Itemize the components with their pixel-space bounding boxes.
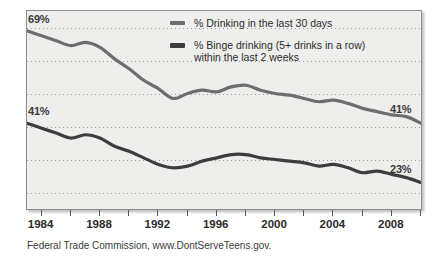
legend-swatch-drinking bbox=[170, 21, 185, 25]
x-axis-tick bbox=[157, 210, 158, 216]
x-axis-labels: 1984198819921996200020042008 bbox=[0, 218, 446, 234]
legend-label-binge-line2: within the last 2 weeks bbox=[194, 51, 299, 63]
x-axis-label: 1984 bbox=[28, 218, 54, 230]
annotation-binge-end: 23% bbox=[390, 163, 411, 175]
x-axis-tick bbox=[362, 210, 363, 216]
x-axis-tick bbox=[420, 210, 421, 216]
legend-item-drinking: % Drinking in the last 30 days bbox=[170, 17, 365, 30]
annotation-drinking-end: 41% bbox=[390, 103, 411, 115]
source-caption: Federal Trade Commission, www.DontServeT… bbox=[27, 240, 271, 251]
x-axis-label: 2004 bbox=[320, 218, 346, 230]
annotation-binge-start: 41% bbox=[28, 105, 49, 117]
x-axis-tick bbox=[187, 210, 188, 216]
x-axis-tick bbox=[274, 210, 275, 216]
x-axis-tick bbox=[303, 210, 304, 216]
x-axis-ticks bbox=[26, 210, 422, 217]
series-line-binge-drinking bbox=[27, 123, 421, 182]
legend-item-binge: % Binge drinking (5+ drinks in a row) wi… bbox=[170, 39, 365, 64]
x-axis-tick bbox=[332, 210, 333, 216]
annotation-drinking-start: 69% bbox=[28, 13, 49, 25]
legend-label-binge: % Binge drinking (5+ drinks in a row) wi… bbox=[194, 39, 365, 64]
x-axis-tick bbox=[99, 210, 100, 216]
legend-label-binge-line1: % Binge drinking (5+ drinks in a row) bbox=[194, 39, 365, 51]
x-axis-label: 1992 bbox=[145, 218, 171, 230]
x-axis-tick bbox=[70, 210, 71, 216]
x-axis-tick bbox=[391, 210, 392, 216]
chart-container: 69% 41% 41% 23% % Drinking in the last 3… bbox=[0, 0, 446, 263]
legend-swatch-binge bbox=[170, 43, 185, 48]
x-axis-tick bbox=[245, 210, 246, 216]
x-axis-tick bbox=[216, 210, 217, 216]
x-axis-tick bbox=[41, 210, 42, 216]
x-axis-label: 1988 bbox=[86, 218, 112, 230]
x-axis-label: 2000 bbox=[261, 218, 287, 230]
x-axis-label: 2008 bbox=[378, 218, 404, 230]
legend-label-drinking: % Drinking in the last 30 days bbox=[194, 17, 332, 30]
x-axis-label: 1996 bbox=[203, 218, 229, 230]
chart-legend: % Drinking in the last 30 days % Binge d… bbox=[170, 17, 365, 73]
x-axis-tick bbox=[128, 210, 129, 216]
